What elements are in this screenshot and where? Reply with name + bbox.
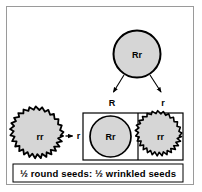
- parent-seed-round: Rr: [114, 31, 161, 78]
- gamete-arrow-right: [150, 75, 161, 92]
- offspring-genotype-label-wrinkled: rr: [157, 132, 165, 142]
- genetics-cross-diagram: Rr R r rr r Rr rr ½ round seeds: ½ wr: [0, 0, 202, 192]
- diagram-canvas: Rr R r rr r Rr rr ½ round seeds: ½ wr: [0, 0, 202, 192]
- tester-parent-genotype-label: rr: [36, 132, 44, 142]
- tester-parent-seed-wrinkled: rr: [10, 106, 64, 158]
- offspring-cell-round: Rr: [90, 116, 131, 157]
- gamete-label-r-right: r: [161, 98, 165, 108]
- gamete-arrow-left: [114, 75, 125, 92]
- parent-genotype-label: Rr: [132, 50, 142, 60]
- ratio-caption-text: ½ round seeds: ½ wrinkled seeds: [20, 168, 176, 179]
- gamete-label-r-left: r: [77, 131, 81, 141]
- gamete-label-R: R: [109, 98, 116, 108]
- offspring-genotype-label-round: Rr: [105, 132, 115, 142]
